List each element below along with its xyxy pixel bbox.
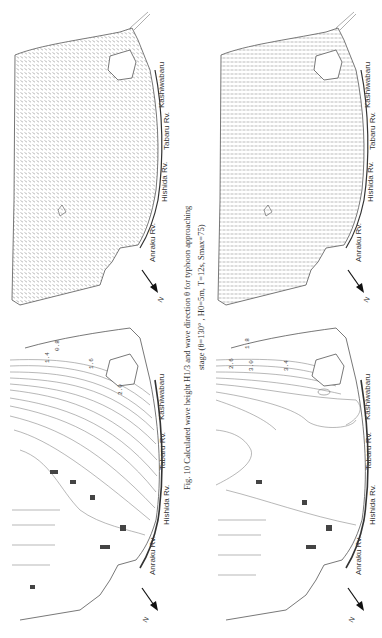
figure-caption: Fig. 10 Calculated wave height H1/3 and … xyxy=(176,80,210,500)
contour-label: 3.4 xyxy=(283,360,290,371)
contour-label: 0.8 xyxy=(54,340,61,351)
label-hishida: Hishida Rv. xyxy=(366,162,375,202)
label-anraku: Anraku Rv. xyxy=(354,223,363,262)
contour-label: 2.6 xyxy=(228,358,235,369)
vector-panel-top-left: Kashiwabaru Tabaru Rv. Hishida Rv. Anrak… xyxy=(0,0,176,320)
label-anraku: Anraku Rv. xyxy=(354,536,363,575)
label-kashiwabaru: Kashiwabaru xyxy=(363,374,372,420)
contour-panel-bottom-left: 0.8 1.4 1.6 2.0 Kashiwabaru Tabaru Rv. H… xyxy=(0,320,176,638)
caption-line-1: Fig. 10 Calculated wave height H1/3 and … xyxy=(182,206,192,490)
caption-line-2: stage (θ=130° , H0=5m, T=12s, Smax=75) xyxy=(196,225,206,370)
label-hishida: Hishida Rv. xyxy=(160,162,169,202)
label-hishida: Hishida Rv. xyxy=(162,485,171,525)
contour-panel-bottom-right: 1.8 2.6 3.0 3.4 Kashiwabaru Tabaru Rv. H… xyxy=(206,320,382,638)
label-hishida: Hishida Rv. xyxy=(368,485,377,525)
contour-label: 3.0 xyxy=(248,360,255,371)
label-kashiwabaru: Kashiwabaru xyxy=(363,62,372,108)
label-tabaru: Tabaru Rv. xyxy=(158,432,167,470)
vector-map xyxy=(206,0,382,320)
vector-panel-top-right: Kashiwabaru Tabaru Rv. Hishida Rv. Anrak… xyxy=(206,0,382,320)
label-tabaru: Tabaru Rv. xyxy=(364,432,373,470)
contour-label: 1.6 xyxy=(88,358,95,369)
contour-label: 1.4 xyxy=(44,352,51,363)
label-kashiwabaru: Kashiwabaru xyxy=(157,374,166,420)
label-kashiwabaru: Kashiwabaru xyxy=(157,62,166,108)
label-tabaru: Tabaru Rv. xyxy=(368,112,377,150)
label-anraku: Anraku Rv. xyxy=(148,536,157,575)
contour-label: 2.0 xyxy=(117,384,124,395)
contour-label: 1.8 xyxy=(244,338,251,349)
label-anraku: Anraku Rv. xyxy=(148,223,157,262)
label-tabaru: Tabaru Rv. xyxy=(162,112,171,150)
vector-map xyxy=(0,0,176,320)
